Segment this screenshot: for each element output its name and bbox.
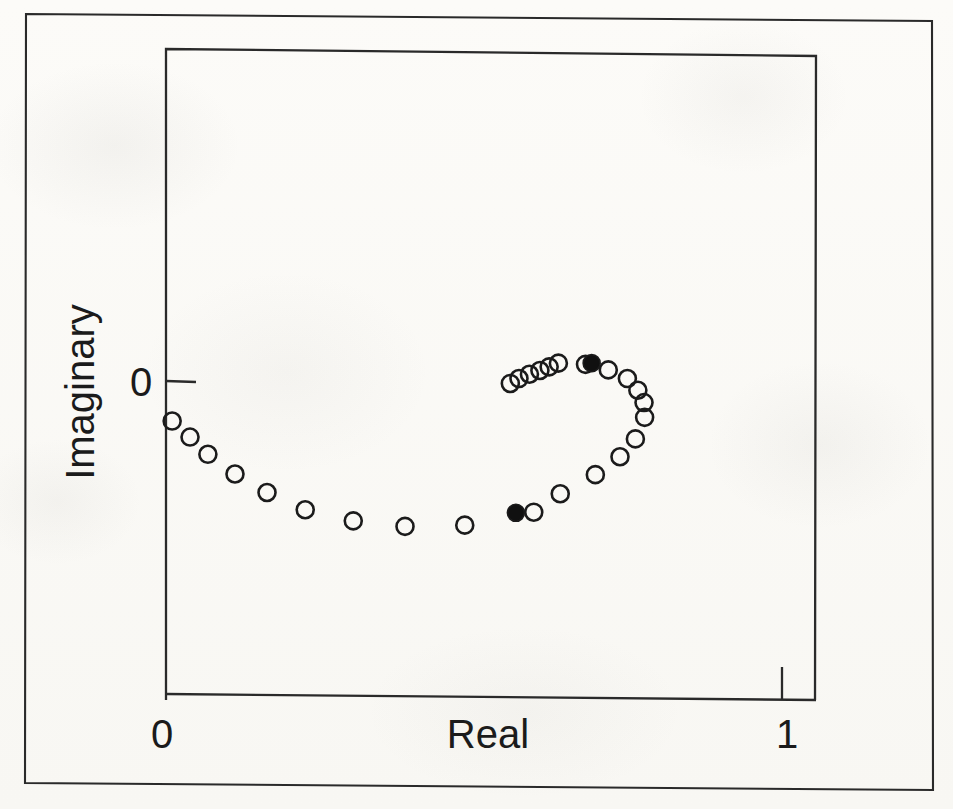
data-point-open <box>345 512 362 529</box>
data-markers-group <box>164 355 653 535</box>
data-point-filled <box>507 504 524 521</box>
data-point-open <box>611 448 628 465</box>
x-tick-label-zero: 0 <box>151 712 173 756</box>
x-tick-label-one: 1 <box>776 712 798 756</box>
x-axis-line <box>166 694 816 700</box>
data-point-open <box>259 484 276 501</box>
data-point-filled <box>583 355 600 372</box>
data-point-open <box>182 429 199 446</box>
data-point-open <box>552 485 569 502</box>
outer-border <box>25 14 933 790</box>
y-axis-title: Imaginary <box>58 304 102 480</box>
y-tick-zero <box>166 381 196 382</box>
data-point-open <box>521 366 538 383</box>
plot-svg: 0 0 1 Real Imaginary <box>0 0 953 809</box>
data-point-open <box>226 466 243 483</box>
data-point-open <box>627 430 644 447</box>
data-point-open <box>619 370 636 387</box>
data-point-open <box>456 517 473 534</box>
data-point-open <box>297 501 314 518</box>
x-axis-title: Real <box>447 712 529 756</box>
plot-frame <box>166 49 816 700</box>
data-point-open <box>397 518 414 535</box>
figure-canvas: 0 0 1 Real Imaginary <box>0 0 953 809</box>
data-point-open <box>587 466 604 483</box>
data-point-open <box>600 361 617 378</box>
data-point-open <box>199 446 216 463</box>
y-tick-label-zero: 0 <box>130 360 152 404</box>
data-point-open <box>525 504 542 521</box>
